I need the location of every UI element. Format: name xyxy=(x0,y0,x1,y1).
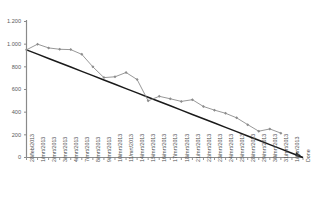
y-axis-tick-label: 1.200 xyxy=(0,18,21,24)
y-axis-tick-label: 400 xyxy=(0,109,21,115)
series-marker-actual xyxy=(69,48,72,51)
x-axis-tick-label: 1/apr/2013 xyxy=(294,136,300,161)
x-axis-tick-label: 28/mrt/2013 xyxy=(250,133,256,161)
x-axis-tick-label: 4/mrt/2013 xyxy=(73,136,79,161)
series-line-actual xyxy=(27,44,281,133)
x-axis-tick-label: 16/mrt/2013 xyxy=(161,133,167,161)
x-axis-tick-label: 17/mrt/2013 xyxy=(172,133,178,161)
x-axis-tick-label: 25/mrt/2013 xyxy=(239,133,245,161)
x-axis-tick-label: 14/mrt/2013 xyxy=(139,133,145,161)
x-axis-tick-label: 21/mrt/2013 xyxy=(195,133,201,161)
x-axis-tick-label: 2/mrt/2013 xyxy=(51,136,57,161)
series-marker-actual xyxy=(58,48,61,51)
y-axis-tick-label: 1.000 xyxy=(0,41,21,47)
series-marker-actual xyxy=(169,97,172,100)
series-marker-actual xyxy=(268,127,271,130)
x-axis-tick-label: 23/mrt/2013 xyxy=(217,133,223,161)
x-axis-tick-label: 11/mrt/2013 xyxy=(128,134,134,162)
x-axis-tick-label: 31/mrt/2013 xyxy=(283,133,289,161)
series-marker-actual xyxy=(224,112,227,115)
y-axis-tick-label: 200 xyxy=(0,132,21,138)
x-axis-tick-label: 24/mrt/2013 xyxy=(228,133,234,161)
x-axis-tick-label: 10/mrt/2013 xyxy=(117,133,123,161)
x-axis-tick-label: 8/mrt/2013 xyxy=(95,136,101,161)
x-axis-tick-label: 9/mrt/2013 xyxy=(106,136,112,161)
chart-plot-area xyxy=(0,0,321,207)
series-marker-actual xyxy=(113,75,116,78)
x-axis-tick-label: 18/mrt/2013 xyxy=(184,133,190,161)
y-axis-tick-label: 800 xyxy=(0,64,21,70)
y-axis-tick-label: 600 xyxy=(0,86,21,92)
y-axis-tick-label: 0 xyxy=(0,154,21,160)
burndown-chart: 02004006008001.0001.200 28/feb/20131/mrt… xyxy=(0,0,321,207)
x-axis-tick-label: 28/feb/2013 xyxy=(29,134,35,162)
series-marker-actual xyxy=(213,109,216,112)
series-marker-actual xyxy=(180,100,183,103)
series-marker-actual xyxy=(158,95,161,98)
x-axis-tick-label: 3/mrt/2013 xyxy=(62,136,68,161)
series-marker-actual xyxy=(36,43,39,46)
x-axis-tick-label: 29/mrt/2013 xyxy=(261,133,267,161)
x-axis-tick-label: Done xyxy=(305,149,311,162)
x-axis-tick-label: 30/mrt/2013 xyxy=(272,133,278,161)
series-marker-actual xyxy=(279,132,282,135)
series-marker-actual xyxy=(47,46,50,49)
x-axis-tick-label: 7/mrt/2013 xyxy=(84,136,90,161)
x-axis-tick-label: 22/mrt/2013 xyxy=(206,133,212,161)
x-axis-tick-label: 15/mrt/2013 xyxy=(150,133,156,161)
x-axis-tick-label: 1/mrt/2013 xyxy=(40,136,46,161)
